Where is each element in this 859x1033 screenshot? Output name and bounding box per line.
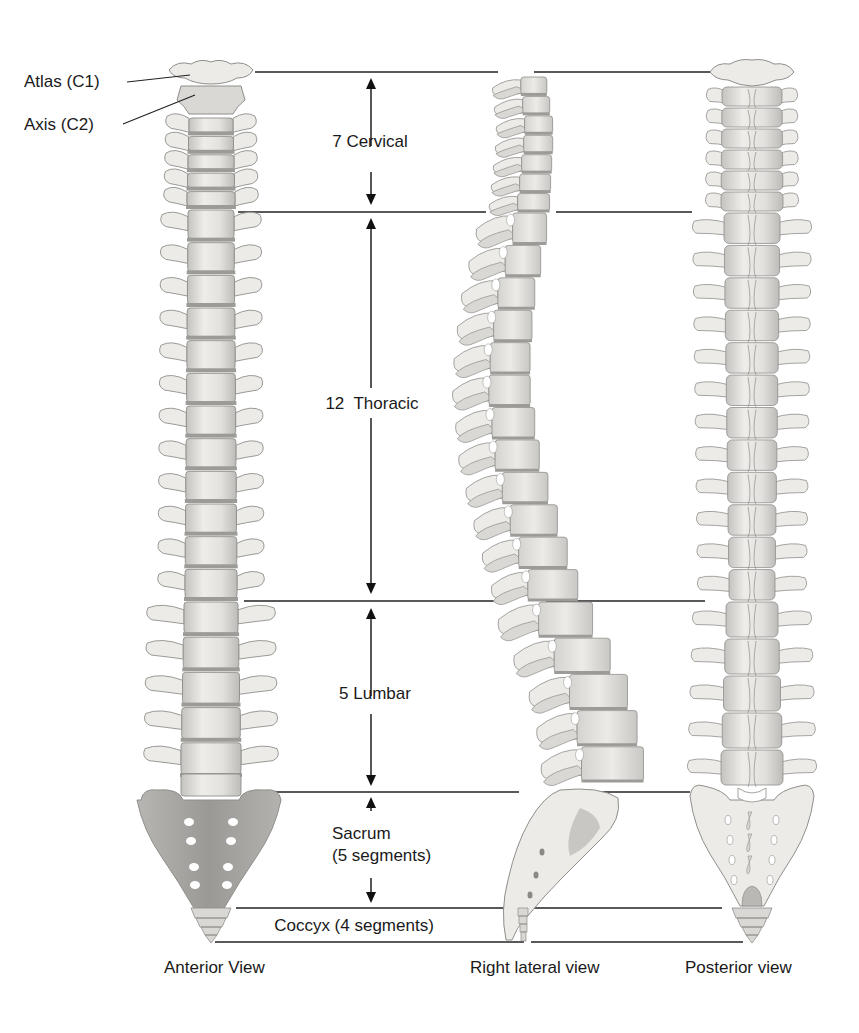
vertebral-body <box>186 406 235 435</box>
intervertebral-disc <box>187 238 235 242</box>
lamina <box>729 570 775 600</box>
atlas-vertebra <box>169 60 253 84</box>
lamina <box>722 713 782 748</box>
transverse-process <box>159 375 186 394</box>
lamina <box>724 676 781 711</box>
atlas-vertebra-posterior <box>710 60 794 87</box>
lamina <box>722 108 782 127</box>
lamina <box>725 639 780 674</box>
sacral-foramen <box>727 836 733 845</box>
sacral-foramen <box>773 816 779 825</box>
vertebral-body <box>186 504 237 533</box>
sacrum-anterior <box>137 790 281 910</box>
transverse-process <box>146 640 183 659</box>
sacral-foramen <box>769 856 775 865</box>
vertebral-body <box>495 440 539 470</box>
vertebral-body <box>185 537 236 566</box>
transverse-process <box>235 169 258 188</box>
coccyx-label: Coccyx (4 segments) <box>274 916 434 936</box>
intervertebral-disc <box>186 205 236 209</box>
thoracic-vertebra <box>159 373 262 405</box>
sacrum-label: Sacrum <box>332 824 391 844</box>
posterior-lumbar-vertebra <box>691 639 813 676</box>
sacral-foramen <box>771 836 777 845</box>
vertebral-body <box>188 155 234 169</box>
lumbar-vertebra <box>144 708 277 742</box>
transverse-process <box>773 414 809 430</box>
sacrum-segments-label: (5 segments) <box>332 846 431 866</box>
transverse-process <box>159 408 186 427</box>
lateral-cervical-vertebra <box>494 96 549 118</box>
transverse-process <box>164 169 187 188</box>
intervertebral-foramen <box>486 409 494 421</box>
intervertebral-disc <box>186 303 235 307</box>
transverse-process <box>775 317 811 333</box>
transverse-process <box>166 114 189 133</box>
sacral-foramen <box>184 818 194 826</box>
intervertebral-foramen <box>571 713 579 725</box>
vertebral-body <box>188 243 235 272</box>
posterior-cervical-vertebra <box>705 192 798 213</box>
vertebral-body <box>523 96 550 113</box>
lamina <box>727 440 777 470</box>
intervertebral-disc <box>186 401 237 405</box>
intervertebral-foramen <box>483 376 491 388</box>
transverse-process <box>145 676 182 695</box>
transverse-process <box>235 343 262 362</box>
arrow-up-icon <box>366 797 376 808</box>
lateral-cervical-vertebra <box>495 135 552 157</box>
transverse-process <box>165 151 188 170</box>
transverse-process <box>778 722 816 738</box>
lamina <box>725 310 778 340</box>
transverse-process <box>235 277 262 296</box>
vertebral-body <box>528 570 578 600</box>
intervertebral-foramen <box>548 640 556 652</box>
transverse-process <box>774 349 810 365</box>
transverse-process <box>236 473 263 492</box>
vertebral-body <box>524 135 553 152</box>
sacral-foramen <box>222 881 232 889</box>
posterior-thoracic-vertebra <box>695 408 809 440</box>
sacral-foramen <box>223 863 233 871</box>
vertebral-body <box>522 155 552 172</box>
arrow-up-icon <box>366 608 376 619</box>
lumbar-vertebra <box>147 602 276 636</box>
transverse-process <box>238 605 275 624</box>
sacral-foramen <box>767 876 773 885</box>
coccyx-posterior <box>732 908 772 943</box>
thoracic-region-label: 12 Thoracic <box>325 394 418 414</box>
thoracic-vertebra <box>160 341 263 373</box>
transverse-process <box>144 711 181 730</box>
lateral-lumbar-vertebra <box>498 602 592 641</box>
lamina <box>728 505 776 535</box>
intervertebral-foramen <box>564 676 572 688</box>
transverse-process <box>158 571 185 590</box>
lateral-thoracic-vertebra <box>459 440 540 475</box>
lumbar-vertebra <box>146 637 276 671</box>
vertebral-body <box>188 210 234 239</box>
transverse-process <box>158 473 185 492</box>
lateral-lumbar-vertebra <box>541 747 643 786</box>
intervertebral-foramen <box>576 749 584 761</box>
transverse-process <box>777 685 815 701</box>
transverse-process <box>235 310 262 329</box>
transverse-process <box>237 539 264 558</box>
lateral-lumbar-vertebra <box>537 711 637 750</box>
lamina <box>722 87 782 106</box>
thoracic-vertebra <box>158 537 264 569</box>
lateral-view-caption: Right lateral view <box>470 958 599 978</box>
spine-illustration <box>0 0 859 1033</box>
lateral-cervical-vertebra <box>489 194 549 216</box>
arrow-down-icon <box>366 194 376 205</box>
sacral-foramen <box>228 818 238 826</box>
thoracic-vertebra <box>158 471 263 503</box>
arrow-down-icon <box>366 775 376 786</box>
transverse-process <box>233 114 256 133</box>
intervertebral-foramen <box>496 473 504 485</box>
intervertebral-foramen <box>489 441 497 453</box>
transverse-process <box>696 447 732 463</box>
transverse-process <box>697 576 733 592</box>
sacral-foramen <box>540 849 545 856</box>
transverse-process <box>693 284 729 300</box>
transverse-process <box>160 310 187 329</box>
